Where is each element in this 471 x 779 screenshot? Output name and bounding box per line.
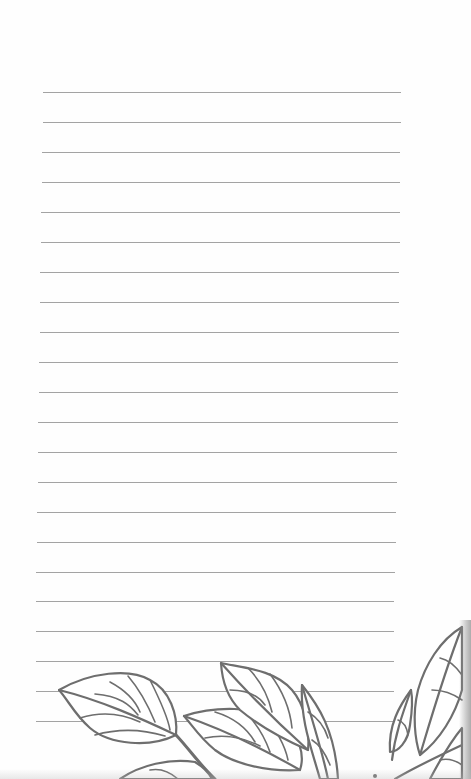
notebook-page <box>0 0 471 779</box>
page-edge-shadow <box>459 620 471 779</box>
leaf-illustration <box>0 0 471 779</box>
leaf-tall-narrow <box>302 685 338 779</box>
leaf-small-right <box>390 690 412 760</box>
leaf-left <box>59 673 176 743</box>
page-bottom-shadow <box>0 769 471 779</box>
